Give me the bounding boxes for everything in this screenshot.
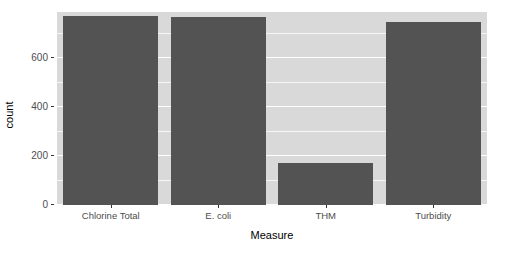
x-tick-label: Turbidity (380, 210, 488, 222)
y-tick: 400 (0, 101, 54, 113)
y-tick: 600 (0, 52, 54, 64)
x-tick-mark (433, 205, 434, 208)
y-tick-mark (51, 57, 54, 58)
bar (278, 163, 373, 205)
y-tick: 0 (0, 199, 54, 211)
bar (386, 22, 481, 205)
x-tick: E. coli (165, 205, 273, 227)
x-tick-mark (326, 205, 327, 208)
x-tick: Turbidity (380, 205, 488, 227)
x-tick: THM (272, 205, 380, 227)
bar-chart: count 0200400600 Chlorine TotalE. coliTH… (0, 0, 508, 255)
x-axis: Chlorine TotalE. coliTHMTurbidity (57, 205, 487, 227)
x-tick: Chlorine Total (57, 205, 165, 227)
y-tick-label: 400 (31, 101, 48, 113)
y-tick-label: 600 (31, 52, 48, 64)
y-tick-mark (51, 155, 54, 156)
y-tick-mark (51, 106, 54, 107)
y-tick-mark (51, 204, 54, 205)
x-tick-label: THM (272, 210, 380, 222)
bar (63, 16, 158, 205)
y-tick: 200 (0, 150, 54, 162)
x-tick-label: Chlorine Total (57, 210, 165, 222)
bar (171, 17, 266, 205)
x-tick-mark (111, 205, 112, 208)
y-tick-label: 0 (42, 199, 48, 211)
x-axis-title: Measure (57, 228, 487, 242)
y-tick-label: 200 (31, 150, 48, 162)
x-tick-label: E. coli (165, 210, 273, 222)
x-tick-mark (218, 205, 219, 208)
plot-panel (57, 12, 487, 205)
y-axis: 0200400600 (0, 12, 54, 205)
